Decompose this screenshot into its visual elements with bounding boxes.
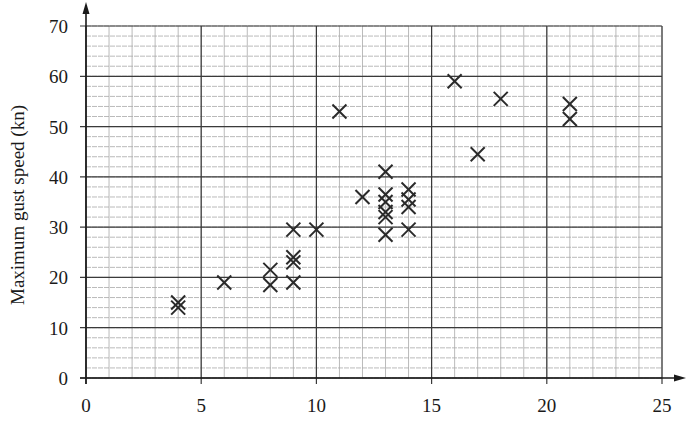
y-tick-label: 0 (59, 368, 69, 389)
data-points (171, 74, 577, 314)
x-tick-label: 25 (653, 395, 672, 416)
x-axis-arrow-icon (674, 375, 686, 382)
y-tick-label: 20 (49, 267, 68, 288)
minor-gridlines (86, 26, 662, 378)
y-axis-title: Maximum gust speed (kn) (7, 105, 29, 305)
x-axis-tick-labels: 0510152025 (81, 395, 671, 416)
y-tick-label: 70 (49, 16, 68, 37)
y-tick-label: 10 (49, 318, 68, 339)
x-tick-label: 5 (196, 395, 206, 416)
y-tick-label: 60 (49, 66, 68, 87)
y-tick-label: 50 (49, 117, 68, 138)
y-tick-label: 40 (49, 167, 68, 188)
x-tick-label: 15 (422, 395, 441, 416)
y-axis-tick-labels: 010203040506070 (49, 16, 68, 389)
y-axis-arrow-icon (83, 2, 90, 14)
x-tick-label: 10 (307, 395, 326, 416)
x-tick-label: 20 (537, 395, 556, 416)
x-tick-label: 0 (81, 395, 91, 416)
scatter-chart: 0510152025 010203040506070 Maximum gust … (0, 0, 688, 426)
y-tick-label: 30 (49, 217, 68, 238)
major-gridlines (80, 26, 662, 384)
